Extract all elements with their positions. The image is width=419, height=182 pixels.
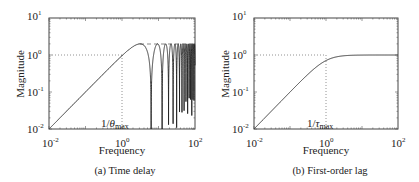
- panel-time-delay: [49, 18, 195, 129]
- xtick-label: 102: [188, 136, 203, 149]
- annotation-tau-max: 1/τmax: [307, 117, 333, 131]
- ytick-label: 10-2: [232, 122, 249, 135]
- time-delay-curve: [49, 44, 195, 129]
- y-tick-labels-a: 101 100 10-1 10-2: [27, 9, 44, 135]
- xtick-label: 10-2: [42, 136, 59, 149]
- ytick-label: 100: [232, 48, 247, 61]
- ytick-label: 10-2: [27, 122, 44, 135]
- panel-first-order-lag: [254, 18, 398, 129]
- xtick-label: 102: [391, 136, 406, 149]
- caption: (b) First-order lag: [292, 165, 368, 177]
- x-axis-label: Frequency: [99, 144, 146, 156]
- y-tick-labels-b: 101 100 10-1 10-2: [232, 9, 249, 135]
- ytick-label: 101: [27, 9, 42, 22]
- x-axis-label: Frequency: [303, 144, 350, 156]
- xtick-label: 10-2: [246, 136, 263, 149]
- y-axis-label: Magnitude: [219, 50, 231, 98]
- ytick-label: 101: [232, 9, 247, 22]
- annotation-theta-max: 1/θmax: [101, 117, 129, 131]
- ytick-label: 10-1: [27, 85, 44, 98]
- figure: 101 100 10-1 10-2 10-2 100 102 Frequency…: [0, 0, 419, 182]
- y-axis-label: Magnitude: [14, 50, 26, 98]
- ytick-label: 100: [27, 48, 42, 61]
- caption: (a) Time delay: [94, 165, 156, 177]
- ytick-label: 10-1: [232, 85, 249, 98]
